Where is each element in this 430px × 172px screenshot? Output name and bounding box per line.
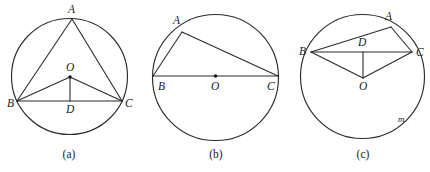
- figure-c-segment-OB: [311, 52, 363, 78]
- figure-c-segment-AC: [391, 27, 412, 52]
- figure-b-label-o: O: [211, 80, 220, 92]
- figure-b-point-o-dot: [214, 74, 218, 78]
- figure-a-segment-AC: [72, 19, 122, 101]
- figure-c-arc-label-m: m: [398, 114, 405, 124]
- figure-c-label-c: C: [416, 46, 424, 58]
- figure-b-segment-AC: [182, 32, 278, 76]
- figure-b-label-a: A: [172, 14, 181, 26]
- figure-c-label-b: B: [299, 45, 306, 57]
- figure-a-label-b: B: [7, 97, 14, 109]
- figure-c-caption: (c): [357, 148, 370, 161]
- figure-b: ABCO(b): [153, 14, 279, 161]
- figure-b-caption: (b): [209, 148, 223, 161]
- figure-c-label-a: A: [384, 10, 393, 22]
- figure-a-label-d: D: [65, 103, 75, 115]
- figure-a-label-o: O: [66, 61, 75, 73]
- figures-root: ABCOD(a)ABCO(b)ABCDOm(c): [7, 3, 425, 161]
- figure-b-label-b: B: [158, 80, 165, 92]
- figure-a-label-c: C: [125, 97, 133, 109]
- figure-b-label-c: C: [267, 80, 275, 92]
- figure-c-segment-AB: [311, 27, 391, 52]
- figure-c-label-o: O: [359, 80, 368, 92]
- figure-a-point-o-dot: [68, 75, 72, 79]
- geometry-figures-canvas: ABCOD(a)ABCO(b)ABCDOm(c): [0, 0, 430, 172]
- figure-a-caption: (a): [63, 148, 76, 161]
- figure-a: ABCOD(a): [7, 3, 133, 161]
- figure-c-label-d: D: [357, 36, 367, 48]
- figure-c: ABCDOm(c): [299, 10, 425, 161]
- figure-board: ABCOD(a)ABCO(b)ABCDOm(c): [0, 0, 430, 172]
- figure-c-segment-OC: [363, 52, 412, 78]
- figure-a-label-a: A: [67, 3, 76, 15]
